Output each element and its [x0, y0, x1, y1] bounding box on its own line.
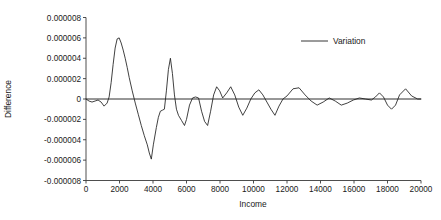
y-tick-label: -0.000004 — [44, 136, 81, 145]
x-tick-label: 10000 — [242, 185, 265, 194]
y-tick-label: -0.000008 — [44, 177, 81, 186]
y-tick-label: 0.000002 — [47, 75, 82, 84]
y-tick-label: -0.000002 — [44, 115, 81, 124]
variation-line-chart: 0.0000080.0000060.0000040.0000020-0.0000… — [0, 0, 441, 220]
x-tick-label: 8000 — [211, 185, 230, 194]
y-tick-label: 0.000004 — [47, 54, 82, 63]
y-tick-label: 0.000006 — [47, 34, 82, 43]
legend-label-variation: Variation — [333, 36, 366, 46]
chart-container: 0.0000080.0000060.0000040.0000020-0.0000… — [0, 0, 441, 220]
x-tick-label: 14000 — [309, 185, 332, 194]
x-tick-label: 20000 — [410, 185, 433, 194]
x-tick-label: 0 — [84, 185, 89, 194]
x-tick-label: 12000 — [276, 185, 299, 194]
y-tick-label: -0.000006 — [44, 156, 81, 165]
x-tick-label: 4000 — [144, 185, 163, 194]
x-axis-title: Income — [239, 199, 267, 209]
x-tick-label: 6000 — [177, 185, 196, 194]
x-tick-label: 18000 — [376, 185, 399, 194]
x-tick-label: 2000 — [110, 185, 129, 194]
y-axis-title: Difference — [3, 80, 13, 118]
x-tick-label: 16000 — [343, 185, 366, 194]
y-tick-label: 0 — [76, 95, 81, 104]
y-tick-label: 0.000008 — [47, 14, 82, 23]
